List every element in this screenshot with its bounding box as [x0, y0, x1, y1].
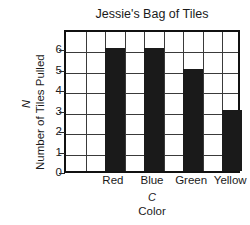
x-axis-tick-label: Blue: [140, 174, 163, 186]
bar: [222, 110, 242, 171]
x-axis-variable-label: C: [64, 191, 240, 203]
y-axis-tick-mark: [59, 71, 65, 72]
y-axis-tick-mark: [59, 173, 65, 174]
y-axis-tick-mark: [59, 112, 65, 113]
y-axis-tick-mark: [59, 153, 65, 154]
x-axis-tick-label: Red: [102, 174, 123, 186]
x-axis-tick-labels: RedBlueGreenYellow: [64, 174, 240, 190]
x-axis-title: Color: [64, 205, 240, 217]
plot-area: [64, 30, 240, 173]
y-axis-tick-mark: [59, 50, 65, 51]
y-axis-tick-labels: 0123456: [44, 30, 62, 173]
bar: [144, 48, 164, 171]
bar: [183, 69, 203, 171]
y-axis-tick-mark: [59, 132, 65, 133]
bar: [105, 48, 125, 171]
bars-group: [66, 32, 238, 171]
x-axis-tick-label: Green: [175, 174, 207, 186]
y-axis-tick-mark: [59, 91, 65, 92]
x-axis-tick-label: Yellow: [214, 174, 247, 186]
chart-title: Jessie's Bag of Tiles: [64, 7, 240, 21]
y-axis-variable-label: N: [20, 100, 32, 108]
chart-screenshot: Jessie's Bag of Tiles N Number of Tiles …: [0, 0, 250, 225]
